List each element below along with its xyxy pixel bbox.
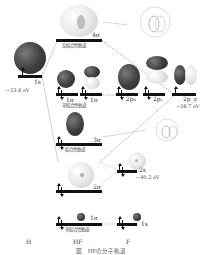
1sigma-type: 非結合性軌道	[65, 228, 89, 233]
f-2s-level	[117, 170, 137, 173]
f-2s-energy: −40.2 eV	[136, 174, 159, 180]
electron-down-arrow	[85, 90, 86, 98]
electron-up-arrow	[58, 88, 59, 96]
f-2px-label: 2pₓ	[126, 96, 136, 102]
column-label-hf: HF	[73, 238, 82, 245]
electron-up-arrow	[58, 185, 59, 193]
electron-down-arrow	[61, 187, 62, 195]
electron-up-arrow	[175, 88, 176, 96]
3sigma-level	[56, 143, 102, 146]
electron-down-arrow	[121, 90, 122, 98]
f-1s-label: 1s	[141, 221, 148, 227]
f-2py-label: 2pᵧ	[153, 96, 163, 102]
h-1s-orbital-sphere	[14, 42, 46, 74]
electron-up-arrow	[58, 218, 59, 226]
f-2pz-label: 2p_z	[183, 96, 197, 102]
f-2p-energy: −18.7 eV	[176, 103, 199, 109]
electron-up-arrow	[145, 88, 146, 96]
1sigma-level	[56, 223, 102, 226]
electron-up-arrow	[119, 218, 120, 226]
electron-up-arrow	[58, 138, 59, 146]
electron-down-arrow	[61, 140, 62, 148]
column-label-h: H	[26, 238, 31, 245]
4sigma-type: 反結合性軌道	[62, 44, 86, 49]
electron-down-arrow	[61, 90, 62, 98]
electron-up-arrow	[82, 88, 83, 96]
column-label-f: F	[126, 238, 130, 245]
f-1s-level	[117, 223, 137, 226]
f-2px-lobe-dark	[118, 64, 140, 90]
1pi-type: 非結合性軌道	[62, 104, 86, 109]
electron-up-arrow	[119, 165, 120, 173]
electron-down-arrow	[122, 167, 123, 175]
electron-up-arrow	[22, 69, 23, 78]
1pi-y-lobe-light	[84, 77, 100, 89]
f-2s-nucleus	[135, 159, 138, 162]
1sigma-label: 1σ	[90, 215, 98, 221]
f-2s-label: 2s	[139, 167, 146, 173]
f-2pz-lobe-light	[185, 65, 197, 85]
3sigma-lobe-dark	[66, 112, 84, 136]
2sigma-nucleus	[80, 173, 84, 177]
h-1s-label: 1s	[34, 79, 41, 85]
1pi-y-label: 1π	[90, 97, 98, 103]
figure-caption: 図 HFの分子軌道	[0, 247, 202, 255]
electron-down-arrow	[148, 90, 149, 98]
f-1s-orbital-shape	[133, 213, 141, 221]
f-2py-lobe-dark	[146, 56, 168, 70]
4sigma-inner-lobe	[77, 15, 85, 29]
2sigma-level	[56, 190, 102, 193]
electron-down-arrow	[122, 220, 123, 228]
electron-up-arrow	[118, 88, 119, 96]
4sigma-label: 4σ	[92, 32, 100, 38]
3sigma-type: 結合性軌道	[65, 148, 85, 153]
f-2py-lobe-light	[146, 70, 168, 84]
1sigma-orbital-shape	[77, 213, 85, 221]
electron-down-arrow	[61, 220, 62, 228]
4sigma-level	[56, 39, 102, 42]
h-1s-energy: −13.6 eV	[6, 87, 29, 93]
